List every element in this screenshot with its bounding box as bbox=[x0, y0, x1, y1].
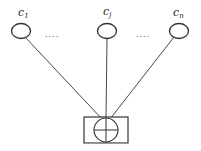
node-cn: cn bbox=[170, 6, 189, 39]
node-cj: cj bbox=[98, 5, 117, 39]
edge-cj-combiner bbox=[106, 38, 107, 119]
ellipsis-left: .... bbox=[45, 30, 59, 39]
edge-c1-combiner bbox=[25, 37, 102, 119]
ellipsis-right: .... bbox=[136, 30, 150, 39]
node-c1-subscript: 1 bbox=[24, 12, 28, 20]
node-cn-subscript: n bbox=[179, 12, 184, 20]
edge-cn-combiner bbox=[110, 37, 174, 119]
circle-plus-icon bbox=[94, 118, 118, 142]
svg-text:cn: cn bbox=[173, 6, 184, 20]
combiner-box bbox=[84, 117, 128, 144]
ensemble-diagram: c1 cj cn .... .... bbox=[0, 0, 201, 151]
svg-text:cj: cj bbox=[103, 5, 112, 19]
node-c1: c1 bbox=[12, 6, 31, 39]
svg-text:c1: c1 bbox=[18, 6, 29, 20]
